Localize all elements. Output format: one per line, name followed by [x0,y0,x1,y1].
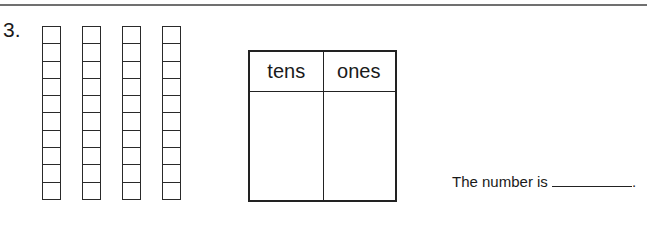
unit-cube [162,78,181,96]
unit-cube [42,164,61,182]
ten-rod [42,26,61,200]
unit-cube [122,78,141,96]
header-tens: tens [250,52,323,91]
answer-period: . [632,173,636,190]
unit-cube [162,182,181,200]
unit-cube [162,26,181,44]
unit-cube [82,78,101,96]
ten-rod [82,26,101,200]
ones-answer-cell[interactable] [324,92,395,200]
unit-cube [42,147,61,165]
unit-cube [122,43,141,61]
unit-cube [82,130,101,148]
unit-cube [42,112,61,130]
unit-cube [82,26,101,44]
unit-cube [162,112,181,130]
unit-cube [122,147,141,165]
unit-cube [42,95,61,113]
unit-cube [122,61,141,79]
tens-answer-cell[interactable] [250,92,323,200]
unit-cube [122,130,141,148]
unit-cube [82,95,101,113]
unit-cube [122,182,141,200]
answer-blank[interactable] [552,172,632,187]
answer-sentence: The number is. [452,172,636,192]
unit-cube [162,130,181,148]
place-value-table: tens ones [248,50,397,202]
top-divider-rule [0,4,647,6]
ten-rod [162,26,181,200]
unit-cube [82,147,101,165]
unit-cube [162,61,181,79]
unit-cube [122,95,141,113]
unit-cube [82,43,101,61]
unit-cube [42,182,61,200]
answer-prompt: The number is [452,173,548,190]
unit-cube [82,61,101,79]
unit-cube [82,112,101,130]
unit-cube [42,61,61,79]
ten-rod [122,26,141,200]
question-number: 3. [3,18,21,42]
unit-cube [42,43,61,61]
unit-cube [42,130,61,148]
unit-cube [162,164,181,182]
header-ones: ones [323,52,396,91]
unit-cube [122,26,141,44]
unit-cube [82,164,101,182]
unit-cube [122,164,141,182]
unit-cube [162,43,181,61]
unit-cube [162,147,181,165]
unit-cube [122,112,141,130]
unit-cube [162,95,181,113]
unit-cube [82,182,101,200]
unit-cube [42,26,61,44]
unit-cube [42,78,61,96]
